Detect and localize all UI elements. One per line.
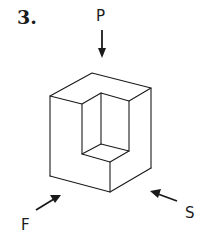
isometric-block	[50, 73, 151, 192]
view-label-side: S	[185, 204, 195, 222]
arrow-front-icon	[36, 195, 61, 210]
arrow-side-icon	[150, 189, 177, 201]
problem-figure: 3. P F S	[0, 0, 208, 252]
view-label-top: P	[96, 7, 105, 25]
arrow-down-icon	[98, 30, 106, 58]
problem-number: 3.	[17, 6, 37, 28]
view-label-front: F	[21, 216, 30, 234]
